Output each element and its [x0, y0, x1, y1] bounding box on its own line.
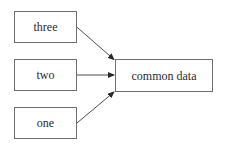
- node-three-label: three: [34, 21, 58, 33]
- edge-three-to-common: [71, 22, 114, 60]
- node-common-data-label: common data: [132, 70, 197, 82]
- diagram-canvas: three two one common data: [0, 0, 225, 148]
- node-two: two: [14, 59, 77, 91]
- node-one: one: [14, 107, 77, 139]
- node-common-data: common data: [115, 59, 213, 92]
- node-two-label: two: [37, 69, 55, 81]
- node-one-label: one: [37, 117, 54, 129]
- edge-one-to-common: [71, 92, 114, 128]
- node-three: three: [14, 11, 77, 43]
